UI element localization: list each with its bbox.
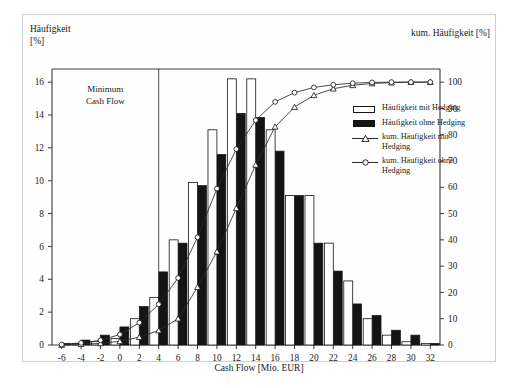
legend-item-kum-ohne-hedging: kum. Häufigkeit ohne Hedging: [352, 156, 474, 176]
svg-text:22: 22: [329, 353, 339, 363]
svg-text:6: 6: [176, 353, 181, 363]
chart-legend: Häufigkeit mit Hedging Häufigkeit ohne H…: [352, 103, 474, 180]
svg-text:40: 40: [448, 235, 458, 245]
svg-text:14: 14: [35, 110, 45, 120]
svg-text:20: 20: [309, 353, 319, 363]
svg-text:-4: -4: [77, 353, 85, 363]
svg-text:20: 20: [448, 288, 458, 298]
legend-item-haeufigkeit-ohne-hedging: Häufigkeit ohne Hedging: [352, 118, 474, 129]
legend-label: Häufigkeit ohne Hedging: [382, 118, 474, 128]
svg-text:0: 0: [448, 340, 453, 350]
svg-text:2: 2: [137, 353, 142, 363]
svg-text:28: 28: [387, 353, 397, 363]
svg-text:2: 2: [39, 307, 44, 317]
svg-text:30: 30: [406, 353, 416, 363]
svg-text:8: 8: [39, 209, 44, 219]
svg-text:10: 10: [448, 314, 458, 324]
svg-text:32: 32: [426, 353, 436, 363]
svg-text:12: 12: [35, 143, 45, 153]
svg-text:60: 60: [448, 182, 458, 192]
svg-text:30: 30: [448, 261, 458, 271]
svg-text:16: 16: [35, 77, 45, 87]
svg-text:24: 24: [348, 353, 358, 363]
swatch-white-icon: [352, 104, 378, 114]
svg-text:8: 8: [195, 353, 200, 363]
svg-text:-6: -6: [58, 353, 66, 363]
legend-item-haeufigkeit-mit-hedging: Häufigkeit mit Hedging: [352, 103, 474, 114]
svg-text:-2: -2: [97, 353, 105, 363]
svg-text:10: 10: [35, 176, 45, 186]
svg-text:4: 4: [39, 274, 44, 284]
svg-text:0: 0: [39, 340, 44, 350]
svg-text:16: 16: [270, 353, 280, 363]
chart-canvas: 02468101214160102030405060708090100-6-4-…: [0, 0, 518, 388]
legend-item-kum-mit-hedging: kum. Häufigkeit mit Hedging: [352, 132, 474, 152]
legend-label: Häufigkeit mit Hedging: [382, 103, 474, 113]
svg-text:50: 50: [448, 209, 458, 219]
svg-text:4: 4: [156, 353, 161, 363]
line-triangle-icon: [352, 133, 378, 143]
minimum-cashflow-annotation: Minimum Cash Flow: [56, 83, 155, 107]
svg-text:12: 12: [232, 353, 242, 363]
svg-text:26: 26: [367, 353, 377, 363]
svg-text:10: 10: [212, 353, 222, 363]
legend-label: kum. Häufigkeit mit Hedging: [382, 132, 474, 152]
swatch-black-icon: [352, 119, 378, 129]
legend-label: kum. Häufigkeit ohne Hedging: [382, 156, 474, 176]
line-circle-icon: [352, 157, 378, 167]
svg-text:6: 6: [39, 242, 44, 252]
svg-text:0: 0: [118, 353, 123, 363]
svg-text:14: 14: [251, 353, 261, 363]
figure-root: Häufigkeit [%] kum. Häufigkeit [%] Cash …: [0, 0, 518, 388]
svg-text:18: 18: [290, 353, 300, 363]
svg-text:100: 100: [448, 77, 462, 87]
